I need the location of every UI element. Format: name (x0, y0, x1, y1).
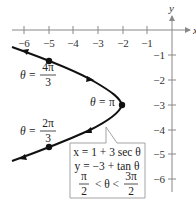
svg-text:=: = (29, 125, 36, 137)
hyperbola-plot: −6 −5 −4 −3 −2 −1 x −1 −2 −3 −4 −5 −6 y … (0, 0, 196, 211)
y-tick-label: −5 (153, 148, 165, 160)
x-tick-label: −5 (43, 37, 55, 49)
svg-text:3π: 3π (125, 170, 137, 182)
svg-text:θ: θ (20, 125, 26, 137)
y-tick-label: −1 (153, 49, 165, 61)
svg-text:< θ <: < θ < (95, 178, 119, 190)
parametric-x: x = 1 + 3 sec θ (73, 146, 141, 158)
svg-text:θ: θ (20, 69, 26, 81)
label-theta-2pi-3: θ = 2π 3 (20, 117, 56, 144)
label-theta-4pi-3: θ = 4π 3 (20, 61, 56, 88)
label-theta-pi: θ = π (90, 96, 115, 108)
y-tick-label: −3 (153, 99, 165, 111)
y-axis-name: y (168, 2, 174, 14)
svg-text:=: = (99, 96, 106, 108)
x-tick-label: −3 (92, 37, 104, 49)
svg-text:2: 2 (128, 185, 134, 197)
svg-text:3: 3 (45, 76, 51, 88)
x-tick-label: −1 (141, 37, 153, 49)
point-theta-pi (119, 102, 125, 108)
y-tick-label: −2 (153, 74, 165, 86)
direction-arrow-icon (84, 127, 92, 133)
y-tick-label: −6 (153, 173, 165, 185)
x-tick-label: −2 (117, 37, 129, 49)
x-tick-label: −4 (67, 37, 79, 49)
svg-text:2π: 2π (42, 117, 54, 129)
svg-text:2: 2 (81, 185, 87, 197)
x-axis: −6 −5 −4 −3 −2 −1 x (12, 24, 196, 49)
equation-callout: x = 1 + 3 sec θ y = −3 + tan θ π 2 < θ <… (70, 127, 145, 198)
y-tick-label: −4 (153, 124, 165, 136)
x-axis-name: x (192, 24, 196, 36)
svg-text:4π: 4π (42, 61, 54, 73)
point-theta-2pi-3 (46, 144, 52, 150)
svg-text:π: π (109, 96, 115, 108)
svg-text:π: π (81, 170, 87, 182)
svg-text:3: 3 (45, 132, 51, 144)
x-tick-label: −6 (18, 37, 30, 49)
svg-text:=: = (29, 69, 36, 81)
svg-text:θ: θ (90, 96, 96, 108)
